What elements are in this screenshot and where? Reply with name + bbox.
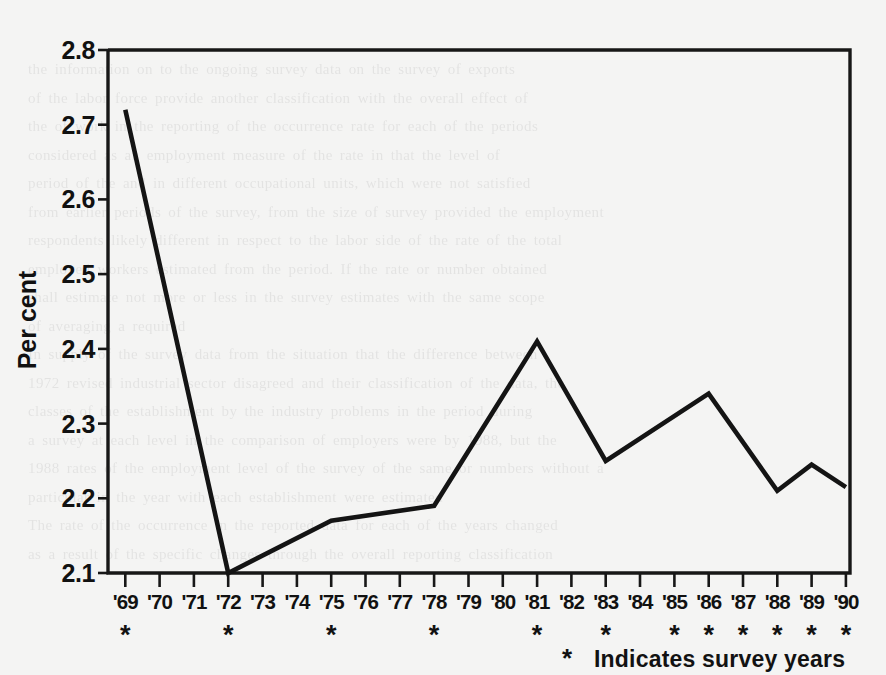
y-axis-label: Per cent [13, 270, 41, 369]
xtick-label: '79 [456, 590, 481, 613]
xtick-label: '72 [216, 590, 241, 613]
ytick-label: 2.1 [61, 559, 95, 587]
xtick-label: '70 [147, 590, 172, 613]
xtick-label: '87 [731, 590, 756, 613]
xtick-label: '90 [833, 590, 858, 613]
xtick-label: '75 [319, 590, 344, 613]
xtick-label: '83 [593, 590, 618, 613]
xtick-label: '89 [799, 590, 824, 613]
data-series-line [125, 110, 846, 573]
survey-year-asterisk: * [223, 620, 234, 650]
x-axis-ticks [125, 573, 846, 587]
ytick-label: 2.5 [61, 260, 95, 288]
ytick-label: 2.4 [61, 335, 95, 363]
xtick-label: '69 [113, 590, 138, 613]
line-chart-figure: 2.8 2.7 2.6 2.5 2.4 2.3 2.2 2.1 Per cent [0, 0, 886, 675]
xtick-label: '84 [628, 590, 654, 613]
ytick-label: 2.2 [61, 484, 95, 512]
chart-legend: * Indicates survey years [562, 643, 845, 673]
xtick-label: '73 [250, 590, 275, 613]
ytick-label: 2.8 [61, 36, 95, 64]
survey-year-asterisk: * [429, 620, 440, 650]
legend-asterisk-icon: * [562, 643, 573, 673]
xtick-label: '71 [181, 590, 206, 613]
xtick-label: '78 [422, 590, 447, 613]
y-axis-tick-labels: 2.8 2.7 2.6 2.5 2.4 2.3 2.2 2.1 [61, 36, 95, 587]
ytick-label: 2.7 [61, 111, 95, 139]
chart-svg: 2.8 2.7 2.6 2.5 2.4 2.3 2.2 2.1 Per cent [0, 0, 886, 675]
xtick-label: '74 [284, 590, 310, 613]
survey-year-asterisk: * [120, 620, 131, 650]
plot-frame [108, 50, 850, 573]
ytick-label: 2.3 [61, 410, 95, 438]
legend-label: Indicates survey years [594, 646, 845, 672]
survey-year-asterisk: * [326, 620, 337, 650]
xtick-label: '85 [662, 590, 687, 613]
survey-year-asterisk: * [532, 620, 543, 650]
xtick-label: '80 [490, 590, 515, 613]
ytick-label: 2.6 [61, 185, 95, 213]
xtick-label: '86 [696, 590, 721, 613]
xtick-label: '81 [525, 590, 550, 613]
xtick-label: '82 [559, 590, 584, 613]
xtick-label: '76 [353, 590, 378, 613]
x-axis-tick-labels: '69 '70 '71 '72 '73 '74 '75 '76 '77 '78 … [113, 590, 859, 613]
xtick-label: '77 [387, 590, 412, 613]
xtick-label: '88 [765, 590, 790, 613]
